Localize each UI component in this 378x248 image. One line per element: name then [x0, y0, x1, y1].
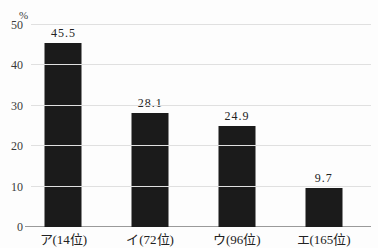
- y-tick-label-20: 20: [11, 140, 23, 152]
- gridline-50: [31, 24, 371, 25]
- bar-column-2: 28.1イ(72位): [107, 25, 194, 227]
- bar-value-label-1: 45.5: [51, 27, 76, 39]
- bar-2: [132, 113, 169, 227]
- bars-container: 45.5ア(14位)28.1イ(72位)24.9ウ(96位)9.7エ(165位): [20, 25, 367, 227]
- bar-column-3: 24.9ウ(96位): [194, 25, 281, 227]
- bar-value-label-4: 9.7: [315, 172, 333, 184]
- gridline-40: [31, 64, 371, 65]
- x-category-label-2: イ(72位): [126, 233, 174, 246]
- bar-column-4: 9.7エ(165位): [280, 25, 367, 227]
- bar-4: [305, 188, 342, 227]
- gridline-10: [31, 186, 371, 187]
- y-tick-label-10: 10: [11, 181, 23, 193]
- bar-column-1: 45.5ア(14位): [20, 25, 107, 227]
- y-tick-label-30: 30: [11, 100, 23, 112]
- gridline-20: [31, 145, 371, 146]
- x-category-label-1: ア(14位): [40, 233, 88, 246]
- x-category-label-4: エ(165位): [297, 233, 351, 246]
- y-tick-label-50: 50: [11, 19, 23, 31]
- bar-value-label-2: 28.1: [138, 97, 163, 109]
- bar-3: [218, 126, 255, 227]
- bar-chart-figure: % 45.5ア(14位)28.1イ(72位)24.9ウ(96位)9.7エ(165…: [0, 0, 378, 248]
- bar-value-label-3: 24.9: [224, 110, 249, 122]
- gridline-30: [31, 105, 371, 106]
- y-tick-label-40: 40: [11, 59, 23, 71]
- y-tick-label-0: 0: [17, 221, 23, 233]
- x-category-label-3: ウ(96位): [213, 233, 261, 246]
- plot-area: 45.5ア(14位)28.1イ(72位)24.9ウ(96位)9.7エ(165位)…: [31, 25, 371, 227]
- bar-1: [45, 43, 82, 227]
